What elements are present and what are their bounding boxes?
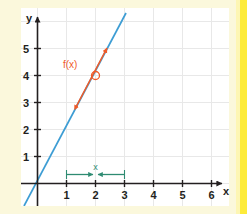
x-tick-label: 1 [63,189,69,201]
x-tick-label: 5 [179,189,185,201]
y-tick-label: 5 [23,43,29,55]
x-tick-label: 2 [92,189,98,201]
x-tick-label: 6 [208,189,214,201]
coordinate-plot: f(x) x [0,0,247,214]
y-tick-label: 1 [23,151,29,163]
figure-container: f(x) x [0,0,247,214]
function-label: f(x) [63,59,77,70]
y-tick-label: 3 [23,97,29,109]
y-tick-label: 4 [23,70,30,82]
interval-label: x [93,162,98,172]
y-tick-label: 2 [23,124,29,136]
y-axis-label: y [26,12,33,24]
x-tick-label: 3 [121,189,127,201]
x-axis-label: x [223,185,230,197]
x-tick-label: 4 [150,189,157,201]
